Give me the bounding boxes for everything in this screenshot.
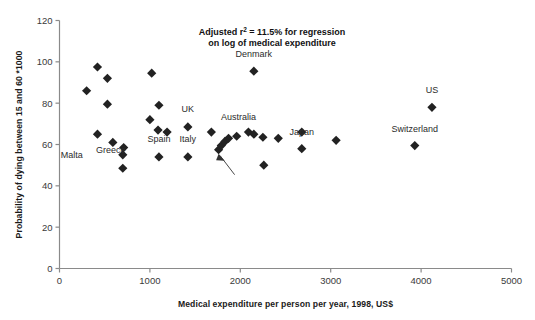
data-point-2 — [103, 74, 112, 83]
y-tick-label-40: 40 — [42, 180, 53, 191]
y-tick-label-80: 80 — [42, 98, 53, 109]
axes-group — [60, 21, 512, 269]
data-point-17 — [207, 128, 216, 137]
data-points-group — [82, 62, 437, 172]
data-point-3 — [103, 100, 112, 109]
y-axis-title: Probability of dying between 15 and 60 *… — [14, 50, 24, 238]
y-tick-label-100: 100 — [37, 56, 53, 67]
data-point-us — [427, 103, 436, 112]
annotation-line-1: Adjusted r2 = 11.5% for regression — [199, 25, 345, 37]
data-point-denmark — [249, 67, 258, 76]
data-point-spain — [154, 152, 163, 161]
data-point-greece — [118, 164, 127, 173]
data-point-uk — [183, 122, 192, 131]
data-point-4 — [93, 130, 102, 139]
y-axis-ticks: 020406080100120 — [37, 15, 60, 274]
data-point-30 — [297, 144, 306, 153]
point-label-uk: UK — [182, 104, 195, 114]
data-point-switzerland — [410, 141, 419, 150]
data-point-0 — [82, 86, 91, 95]
data-point-10 — [154, 101, 163, 110]
x-tick-label-2000: 2000 — [230, 275, 251, 286]
y-tick-label-20: 20 — [42, 222, 53, 233]
point-label-denmark: Denmark — [236, 49, 273, 59]
annotation-line-2: on log of medical expenditure — [208, 38, 336, 48]
x-tick-label-5000: 5000 — [501, 275, 522, 286]
leader-lines-group — [216, 154, 235, 175]
x-tick-label-4000: 4000 — [411, 275, 432, 286]
data-point-27 — [259, 161, 268, 170]
point-label-spain: Spain — [147, 134, 170, 144]
data-point-1 — [93, 62, 102, 71]
y-tick-label-0: 0 — [47, 263, 52, 274]
x-tick-label-3000: 3000 — [320, 275, 341, 286]
y-tick-label-120: 120 — [37, 15, 53, 26]
point-label-australia: Australia — [221, 112, 256, 122]
x-tick-label-0: 0 — [57, 275, 62, 286]
point-labels-group: MaltaGreeceSpainUKItalyAustraliaDenmarkJ… — [61, 49, 438, 160]
data-point-22 — [232, 132, 241, 141]
point-label-us: US — [426, 85, 439, 95]
y-tick-label-60: 60 — [42, 139, 53, 150]
point-label-italy: Italy — [180, 134, 197, 144]
chart-canvas: 020406080100120 010002000300040005000 Ma… — [0, 0, 535, 320]
x-axis-title: Medical expenditure per person per year,… — [178, 299, 393, 309]
point-label-malta: Malta — [61, 150, 83, 160]
point-label-japan: Japan — [290, 127, 315, 137]
point-label-greece: Greece — [96, 145, 126, 155]
data-point-11 — [145, 115, 154, 124]
scatter-chart: 020406080100120 010002000300040005000 Ma… — [0, 0, 535, 320]
data-point-28 — [274, 134, 283, 143]
australia-leader-arrow — [216, 154, 225, 161]
annotation-group: Adjusted r2 = 11.5% for regressionon log… — [199, 25, 345, 48]
x-tick-label-1000: 1000 — [139, 275, 160, 286]
x-axis-ticks: 010002000300040005000 — [57, 269, 522, 286]
data-point-31 — [332, 136, 341, 145]
data-point-9 — [147, 69, 156, 78]
data-point-italy — [183, 152, 192, 161]
data-point-26 — [258, 133, 267, 142]
point-label-switzerland: Switzerland — [392, 124, 439, 134]
